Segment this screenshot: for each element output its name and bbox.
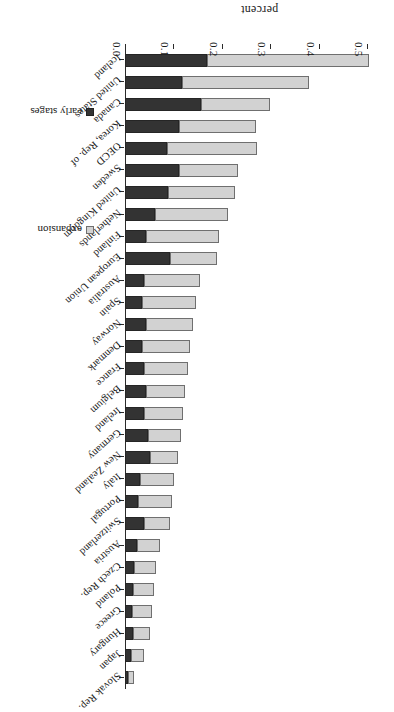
bar-segment-expansion xyxy=(142,340,189,353)
bar-segment-early-stages xyxy=(125,296,142,309)
bar-row xyxy=(125,230,368,243)
bar-segment-expansion xyxy=(167,142,257,155)
bar-segment-early-stages xyxy=(125,517,144,530)
bar-segment-expansion xyxy=(168,186,236,199)
bar-segment-early-stages xyxy=(125,451,150,464)
value-axis-tick xyxy=(319,44,320,49)
value-axis-tick xyxy=(270,44,271,49)
bar-row xyxy=(125,495,368,508)
bar-segment-early-stages xyxy=(125,429,148,442)
bar-segment-early-stages xyxy=(125,363,144,376)
bar-segment-expansion xyxy=(128,671,134,684)
bar-segment-expansion xyxy=(132,605,152,618)
category-label: Greece xyxy=(93,604,123,632)
bar-row xyxy=(125,561,368,574)
axis-title-percent: percent xyxy=(125,2,394,17)
bar-segment-early-stages xyxy=(125,539,137,552)
bar-segment-early-stages xyxy=(125,142,167,155)
bar-segment-expansion xyxy=(146,318,192,331)
bar-segment-early-stages xyxy=(125,340,142,353)
bar-segment-expansion xyxy=(144,274,199,287)
bar-row xyxy=(125,407,368,420)
bar-segment-expansion xyxy=(146,385,185,398)
bar-segment-expansion xyxy=(179,120,255,133)
bar-segment-expansion xyxy=(201,98,270,111)
value-axis-tick xyxy=(367,44,368,49)
value-axis-tick-label: 0.4 xyxy=(305,42,316,56)
bar-row xyxy=(125,517,368,530)
bar-segment-expansion xyxy=(134,561,156,574)
bar-segment-expansion xyxy=(142,296,195,309)
bar-row xyxy=(125,605,368,618)
bar-row xyxy=(125,98,368,111)
bar-row xyxy=(125,671,368,684)
bar-segment-early-stages xyxy=(125,495,138,508)
bar-segment-expansion xyxy=(137,539,160,552)
bar-segment-early-stages xyxy=(125,252,170,265)
bar-row xyxy=(125,274,368,287)
bar-row xyxy=(125,340,368,353)
category-label: Slovak Rep. xyxy=(77,670,123,712)
legend-swatch-early-stages-icon xyxy=(86,108,94,116)
bar-segment-expansion xyxy=(138,495,173,508)
bar-segment-expansion xyxy=(144,407,183,420)
bar-row xyxy=(125,120,368,133)
bar-segment-expansion xyxy=(179,164,238,177)
value-axis-tick xyxy=(173,44,174,49)
bar-row xyxy=(125,627,368,640)
bar-segment-early-stages xyxy=(125,230,146,243)
bar-segment-early-stages xyxy=(125,627,133,640)
legend-label-early-stages: early stages xyxy=(30,106,82,118)
legend-label-expansion: expansion xyxy=(37,224,82,236)
bar-segment-expansion xyxy=(146,230,219,243)
bar-segment-expansion xyxy=(131,649,145,662)
bar-segment-expansion xyxy=(207,54,369,67)
bar-segment-early-stages xyxy=(125,164,179,177)
bar-segment-early-stages xyxy=(125,186,168,199)
legend-item-early-stages: early stages xyxy=(30,106,94,119)
legend-swatch-expansion-icon xyxy=(86,226,94,234)
bar-segment-expansion xyxy=(144,517,169,530)
value-axis-tick xyxy=(222,44,223,49)
bar-row xyxy=(125,186,368,199)
plot-area xyxy=(125,49,368,689)
bar-segment-early-stages xyxy=(125,407,144,420)
bar-segment-early-stages xyxy=(125,318,146,331)
bar-row xyxy=(125,76,368,89)
bar-row xyxy=(125,142,368,155)
bar-segment-early-stages xyxy=(125,583,133,596)
bar-segment-expansion xyxy=(170,252,217,265)
bar-row xyxy=(125,429,368,442)
bar-row xyxy=(125,252,368,265)
bar-row xyxy=(125,208,368,221)
bar-segment-expansion xyxy=(155,208,228,221)
bar-segment-expansion xyxy=(182,76,309,89)
value-axis-tick-label: 0.1 xyxy=(159,42,170,56)
bar-row xyxy=(125,539,368,552)
value-axis-tick-label: 0.0 xyxy=(111,42,122,56)
bar-segment-early-stages xyxy=(125,473,140,486)
bar-segment-expansion xyxy=(150,451,178,464)
bar-row xyxy=(125,296,368,309)
bar-row xyxy=(125,473,368,486)
value-axis-tick xyxy=(125,44,126,49)
bar-segment-early-stages xyxy=(125,561,134,574)
bar-segment-early-stages xyxy=(125,274,144,287)
bar-row xyxy=(125,164,368,177)
bar-segment-early-stages xyxy=(125,76,182,89)
bar-segment-early-stages xyxy=(125,385,146,398)
bar-row xyxy=(125,385,368,398)
bar-row xyxy=(125,318,368,331)
bar-row xyxy=(125,363,368,376)
legend-item-expansion: expansion xyxy=(37,224,94,237)
bar-segment-early-stages xyxy=(125,208,155,221)
bar-row xyxy=(125,451,368,464)
bar-segment-expansion xyxy=(148,429,181,442)
bar-segment-early-stages xyxy=(125,120,179,133)
bar-segment-expansion xyxy=(144,363,188,376)
value-axis-tick-label: 0.3 xyxy=(256,42,267,56)
bar-segment-expansion xyxy=(133,583,154,596)
value-axis-tick-label: 0.2 xyxy=(208,42,219,56)
